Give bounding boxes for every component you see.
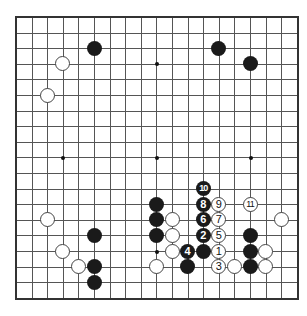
- black-stone: [196, 244, 211, 259]
- black-stone: [149, 197, 164, 212]
- black-stone-move-8: 8: [196, 197, 211, 212]
- black-stone: [243, 244, 258, 259]
- white-stone-move-9: 9: [211, 197, 226, 212]
- black-stone: [243, 56, 258, 71]
- white-stone: [274, 212, 289, 227]
- white-stone: [55, 244, 70, 259]
- white-stone-move-11: 11: [243, 197, 258, 212]
- hoshi-point: [155, 156, 159, 160]
- white-stone: [258, 244, 273, 259]
- white-stone: [227, 259, 242, 274]
- black-stone: [243, 228, 258, 243]
- black-stone: [87, 228, 102, 243]
- white-stone: [71, 259, 86, 274]
- black-stone: [87, 259, 102, 274]
- white-stone: [165, 244, 180, 259]
- black-stone-move-6: 6: [196, 212, 211, 227]
- black-stone-move-4: 4: [180, 244, 195, 259]
- black-stone: [87, 41, 102, 56]
- white-stone: [165, 212, 180, 227]
- black-stone: [149, 228, 164, 243]
- white-stone-move-1: 1: [211, 244, 226, 259]
- go-board: 1089116725413: [0, 0, 307, 316]
- white-stone: [40, 212, 55, 227]
- black-stone: [243, 259, 258, 274]
- hoshi-point: [249, 156, 253, 160]
- black-stone: [87, 275, 102, 290]
- white-stone: [40, 88, 55, 103]
- black-stone-move-10: 10: [196, 181, 211, 196]
- white-stone: [149, 259, 164, 274]
- black-stone-move-2: 2: [196, 228, 211, 243]
- black-stone: [211, 41, 226, 56]
- hoshi-point: [155, 250, 159, 254]
- white-stone: [165, 228, 180, 243]
